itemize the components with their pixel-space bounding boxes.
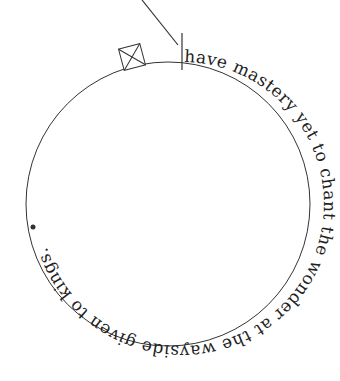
pointer-line (142, 0, 178, 45)
circular-text-diagram: have mastery yet to chant the wonder at … (0, 0, 340, 381)
small-dot (31, 225, 36, 230)
circular-text-path: have mastery yet to chant the wonder at … (31, 46, 340, 362)
marker-square-x-icon (119, 44, 146, 71)
circular-text: have mastery yet to chant the wonder at … (31, 46, 340, 362)
